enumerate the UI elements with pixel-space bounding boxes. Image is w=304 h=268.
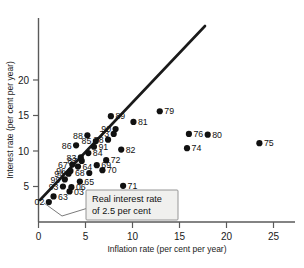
data-point-marker [205, 132, 211, 138]
data-point-label: 74 [192, 143, 202, 153]
x-tick-label: 0 [36, 231, 42, 242]
data-point: 80 [205, 130, 222, 140]
data-point-marker [73, 142, 79, 148]
data-point-label: 84 [93, 148, 103, 158]
data-point-label: 89 [115, 111, 125, 121]
x-tick-label: 10 [127, 231, 139, 242]
data-point: 79 [157, 106, 174, 116]
data-point: 89 [108, 111, 125, 121]
interest-vs-inflation-scatter-chart: 5101520 0510152025 898179889073768086857… [0, 0, 304, 268]
data-point: 93 [49, 182, 66, 192]
svg-text:Real interest rate: Real interest rate [92, 194, 162, 204]
data-point: 02 [35, 197, 52, 207]
data-point-label: 03 [74, 187, 84, 197]
data-point-label: 80 [212, 130, 222, 140]
x-axis-title: Inflation rate (per cent per year) [107, 244, 226, 254]
data-point-label: 72 [111, 155, 121, 165]
data-point-label: 68 [75, 168, 85, 178]
data-point: 76 [186, 129, 203, 139]
x-axis-tick-labels: 0510152025 [36, 231, 280, 242]
svg-text:of 2.5 per cent: of 2.5 per cent [92, 206, 151, 216]
chart-canvas: 5101520 0510152025 898179889073768086857… [0, 0, 304, 268]
data-point-marker [130, 119, 136, 125]
data-point: 63 [50, 192, 67, 202]
data-point-label: 75 [264, 138, 274, 148]
annotation-leader-line [44, 203, 88, 216]
data-point-label: 71 [128, 181, 138, 191]
x-tick-label: 20 [221, 231, 233, 242]
data-point-label: 63 [58, 192, 68, 202]
x-axis: 0510152025 [36, 222, 295, 242]
data-point: 82 [118, 145, 135, 155]
data-point-marker [99, 167, 105, 173]
data-point: 81 [130, 117, 147, 127]
y-tick-label: 5 [23, 181, 29, 192]
data-point-label: 81 [138, 117, 148, 127]
y-axis: 5101520 [18, 18, 39, 222]
data-point-label: 85 [82, 136, 92, 146]
y-axis-tick-labels: 5101520 [18, 75, 30, 193]
data-point: 75 [256, 138, 273, 148]
data-point-marker [94, 162, 100, 168]
x-tick-label: 25 [268, 231, 280, 242]
data-point-marker [157, 108, 163, 114]
data-point: 86 [62, 141, 79, 151]
data-point-marker [60, 183, 66, 189]
data-point-label: 82 [126, 145, 136, 155]
data-point-marker [69, 161, 75, 167]
data-point-label: 93 [49, 182, 59, 192]
x-tick-label: 15 [174, 231, 186, 242]
x-axis-ticks [39, 222, 274, 228]
y-axis-ticks [33, 80, 39, 187]
data-point: 71 [120, 181, 137, 191]
data-point-marker [184, 145, 190, 151]
data-point-label: 86 [62, 141, 72, 151]
data-point-label: 76 [193, 129, 203, 139]
data-point-marker [118, 146, 124, 152]
y-tick-label: 20 [18, 75, 30, 86]
data-point-marker [85, 150, 91, 156]
x-tick-label: 5 [83, 231, 89, 242]
y-tick-label: 15 [18, 110, 30, 121]
data-point-marker [46, 199, 52, 205]
data-point-marker [50, 193, 56, 199]
data-point-label: 70 [107, 165, 117, 175]
data-point-marker [108, 113, 114, 119]
y-axis-title: Interest rate (per cent per year) [5, 61, 15, 179]
data-point: 74 [184, 143, 201, 153]
y-tick-label: 10 [18, 146, 30, 157]
data-point-marker [186, 131, 192, 137]
data-point-marker [120, 183, 126, 189]
data-point-marker [86, 170, 92, 176]
data-point-marker [65, 171, 71, 177]
data-point-label: 79 [164, 106, 174, 116]
data-point-marker [62, 176, 68, 182]
data-point-marker [256, 140, 262, 146]
data-point-label: 65 [84, 177, 94, 187]
legend-annotation: Real interest rate of 2.5 per cent [86, 190, 178, 220]
data-point-marker [111, 131, 117, 137]
data-point-label: 02 [35, 197, 45, 207]
